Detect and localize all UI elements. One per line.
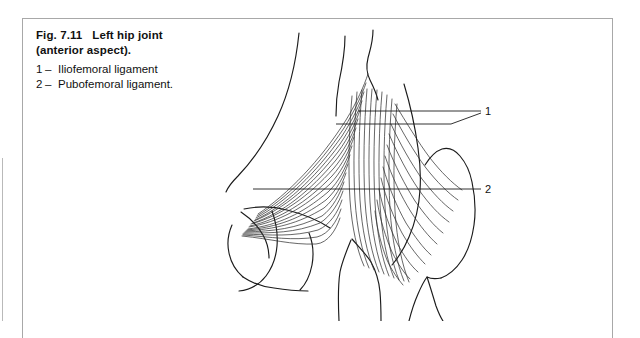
legend-dash-2: –	[45, 77, 58, 92]
legend-label-2: Pubofemoral ligament.	[58, 78, 173, 90]
figure-caption: Fig. 7.11Left hip joint (anterior aspect…	[36, 28, 286, 91]
legend-dash-1: –	[45, 62, 58, 77]
callout-label-1: 1	[485, 106, 491, 117]
legend-item-1: 1–Iliofemoral ligament	[36, 62, 286, 77]
caption-subtitle: (anterior aspect).	[36, 43, 286, 58]
page-margin-rule	[2, 158, 3, 321]
legend-number-2: 2	[36, 77, 45, 92]
legend-label-1: Iliofemoral ligament	[58, 63, 158, 75]
figure-number: Fig. 7.11	[36, 29, 82, 41]
figure-legend: 1–Iliofemoral ligament 2–Pubofemoral lig…	[36, 62, 286, 91]
caption-title-line: Fig. 7.11Left hip joint	[36, 28, 286, 43]
callout-label-2: 2	[485, 184, 491, 195]
legend-item-2: 2–Pubofemoral ligament.	[36, 77, 286, 92]
legend-number-1: 1	[36, 62, 45, 77]
figure-title: Left hip joint	[92, 29, 162, 41]
